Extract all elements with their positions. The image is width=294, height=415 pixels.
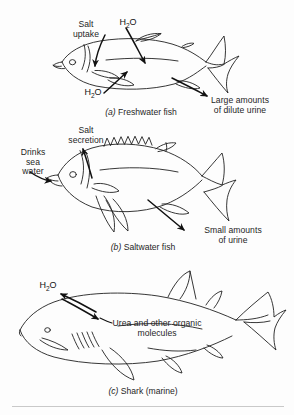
label-salt-uptake-line2: uptake [73, 30, 99, 40]
label-h2o-influx-top: H2O [119, 17, 136, 29]
label-drinks-sea-water-line3: water [21, 167, 46, 177]
caption-panel-c-marker: (c) [108, 386, 118, 396]
label-dilute-urine-line2: of dilute urine [211, 106, 269, 116]
panel-c-arrows [61, 294, 98, 319]
arrow-icon [95, 35, 105, 66]
arrow-icon [126, 28, 145, 63]
label-concentrated-urine: Small amounts of urine [204, 226, 262, 245]
label-concentrated-urine-line2: of urine [204, 236, 262, 246]
label-urea-retention-line2: molecules [112, 329, 201, 339]
panel-a-arrows [95, 28, 207, 96]
caption-panel-a-text: Freshwater fish [116, 107, 177, 117]
label-h2o-influx-bottom: H2O [84, 87, 101, 99]
caption-panel-c: (c) Shark (marine) [108, 386, 177, 396]
saltwater-fish-drawing [47, 136, 236, 232]
eye-icon [45, 328, 51, 333]
label-salt-uptake: Salt uptake [73, 20, 99, 39]
figure-bottom-divider [12, 406, 284, 407]
gill-slits-icon [72, 332, 99, 349]
label-salt-secretion: Salt secretion [68, 126, 103, 145]
label-dilute-urine: Large amounts of dilute urine [211, 96, 269, 115]
label-h2o-shark: H2O [39, 280, 56, 292]
eye-icon [70, 172, 77, 178]
urea-pointer [100, 318, 112, 323]
caption-panel-b-marker: (b) [111, 242, 122, 252]
caption-panel-c-text: Shark (marine) [118, 386, 177, 396]
caption-panel-b: (b) Saltwater fish [111, 242, 176, 252]
label-urea-retention: Urea and other organic molecules [112, 319, 201, 338]
arrow-icon [83, 149, 92, 178]
freshwater-fish-drawing [53, 33, 239, 93]
label-salt-secretion-line2: secretion [68, 136, 103, 146]
arrow-icon [61, 294, 96, 312]
figure-artwork [0, 0, 294, 415]
osmoregulation-figure: Salt uptake H2O H2O Large amounts of dil… [0, 0, 294, 415]
caption-panel-a-marker: (a) [105, 107, 116, 117]
arrow-icon [172, 78, 207, 96]
panel-b-arrows [30, 149, 184, 230]
caption-panel-b-text: Saltwater fish [121, 242, 175, 252]
arrow-icon [62, 299, 98, 319]
eye-icon [69, 60, 75, 65]
arrow-icon [100, 318, 112, 323]
label-drinks-sea-water: Drinks sea water [21, 148, 46, 177]
caption-panel-a: (a) Freshwater fish [105, 107, 177, 117]
